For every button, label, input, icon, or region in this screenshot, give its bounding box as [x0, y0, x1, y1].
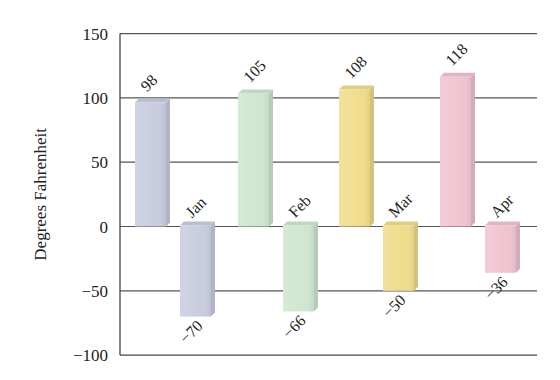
value-label-low: −70: [176, 317, 206, 347]
value-label-low: −36: [481, 273, 511, 303]
value-label-high: 105: [240, 57, 269, 86]
y-tick-label: −100: [73, 346, 108, 365]
bar-low-mar: [383, 222, 418, 291]
bar-high-feb: [238, 89, 273, 226]
y-tick-label: 0: [100, 218, 109, 237]
y-axis-label: Degrees Fahrenheit: [31, 128, 50, 261]
bar-high-mar: [339, 86, 374, 227]
bar-low-apr: [485, 222, 520, 273]
value-label-high: 118: [442, 40, 471, 69]
value-label-low: −66: [279, 312, 309, 342]
gridline-group: −100: [73, 346, 108, 365]
y-tick-label: 50: [91, 153, 108, 172]
y-tick-label: 150: [83, 25, 109, 44]
value-label-high: 108: [341, 53, 370, 82]
gridline-group: 150: [83, 25, 538, 44]
bar-low-feb: [283, 222, 318, 312]
y-tick-label: −50: [81, 282, 108, 301]
bar-high-jan: [135, 98, 170, 226]
value-label-low: −50: [379, 291, 409, 321]
value-label-high: 98: [137, 71, 160, 94]
bar-high-apr: [440, 73, 475, 227]
category-label: Feb: [285, 192, 314, 221]
y-tick-label: 100: [83, 89, 109, 108]
bar-low-jan: [180, 222, 215, 317]
category-label: Apr: [487, 191, 518, 222]
category-label: Jan: [182, 194, 209, 221]
category-label: Mar: [385, 189, 416, 220]
bar-chart: 150100500−50−100Degrees Fahrenheit98Jan−…: [0, 0, 560, 380]
